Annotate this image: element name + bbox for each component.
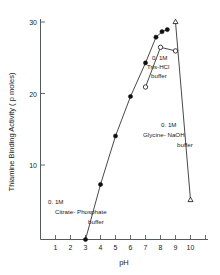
ph-activity-line-chart: 30 20 10 1 2 3 4 5 6 7 8 9 10 <box>0 0 220 275</box>
annotation-glycine-line2: Glycine- NaOH <box>143 131 185 138</box>
annotation-glycine-line3: buffer <box>177 141 193 148</box>
data-point-open-triangle <box>173 19 178 23</box>
annotation-tris-line2: Tris-HCl <box>147 63 169 70</box>
annotation-citrate-phosphate: 0. 1M Citrate- Phosphate buffer <box>48 198 107 225</box>
x-axis-ticks: 1 2 3 4 5 6 7 8 9 10 <box>54 235 206 251</box>
x-tick-label-2: 2 <box>69 244 73 251</box>
data-point-filled <box>113 134 117 138</box>
series-line-triangle <box>176 22 191 200</box>
x-tick-label-4: 4 <box>99 244 103 251</box>
data-point-open-circle <box>143 85 147 89</box>
y-axis-title: Thiamine Binding Activity ( p moles) <box>7 72 16 191</box>
data-point-open-triangle <box>188 197 193 201</box>
x-tick-label-5: 5 <box>114 244 118 251</box>
y-axis-ticks: 30 20 10 <box>29 19 45 169</box>
x-tick-label-10: 10 <box>187 244 195 251</box>
data-point-filled <box>128 94 132 98</box>
data-point-open-circle <box>158 45 162 49</box>
x-tick-label-7: 7 <box>144 244 148 251</box>
chart-figure: 30 20 10 1 2 3 4 5 6 7 8 9 10 <box>0 0 220 275</box>
y-tick-label-20: 20 <box>29 91 37 98</box>
series-glycine-naoh <box>173 19 193 201</box>
annotation-tris-line1: 0. 1M <box>152 54 167 61</box>
data-point-filled <box>154 35 158 39</box>
annotation-glycine-line1: 0. 1M <box>161 121 176 128</box>
data-point-filled <box>160 30 164 34</box>
x-tick-label-9: 9 <box>174 244 178 251</box>
x-tick-label-6: 6 <box>129 244 133 251</box>
data-point-filled <box>98 182 102 186</box>
annotation-tris-hcl: 0. 1M Tris-HCl buffer <box>147 54 169 79</box>
annotation-citrate-line3: buffer <box>88 218 104 225</box>
x-axis-title: pH <box>119 258 129 267</box>
data-point-open-circle <box>173 49 177 53</box>
annotation-citrate-line1: 0. 1M <box>48 198 63 205</box>
annotation-citrate-line2: Citrate- Phosphate <box>55 208 107 215</box>
y-tick-label-10: 10 <box>29 162 37 169</box>
x-tick-label-3: 3 <box>84 244 88 251</box>
x-tick-label-8: 8 <box>159 244 163 251</box>
annotation-tris-line3: buffer <box>151 72 167 79</box>
axis-frame <box>41 19 209 240</box>
data-point-filled <box>165 28 169 32</box>
y-tick-label-30: 30 <box>29 19 37 26</box>
x-tick-label-1: 1 <box>54 244 58 251</box>
data-point-filled <box>83 237 87 241</box>
axis-lines <box>41 19 209 240</box>
